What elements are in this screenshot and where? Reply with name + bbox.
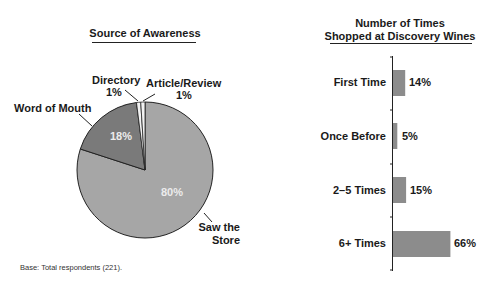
- bar-1: [393, 123, 397, 149]
- bar-value-first-time: 14%: [409, 76, 431, 89]
- bar-2: [393, 177, 406, 203]
- bar-chart: [0, 0, 492, 282]
- bar-value-2-5-times: 15%: [410, 184, 432, 197]
- bar-value-once-before: 5%: [402, 130, 418, 143]
- bar-label-6-plus-times: 6+ Times: [300, 237, 386, 250]
- bar-0: [393, 70, 405, 96]
- bar-label-2-5-times: 2–5 Times: [300, 184, 386, 197]
- bar-label-once-before: Once Before: [300, 130, 386, 143]
- bar-value-6-plus-times: 66%: [454, 237, 476, 250]
- bar-3: [393, 231, 450, 257]
- bar-label-first-time: First Time: [300, 76, 386, 89]
